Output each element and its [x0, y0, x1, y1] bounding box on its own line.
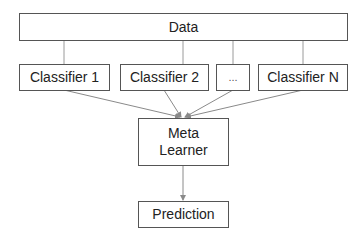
meta-learner-node: Meta Learner	[138, 118, 229, 166]
classifier-n-label: Classifier N	[267, 69, 339, 86]
classifier-1-node: Classifier 1	[19, 64, 110, 91]
ellipsis-node: ...	[216, 64, 250, 91]
classifier-2-label: Classifier 2	[130, 69, 199, 86]
meta-learner-label-line2: Learner	[159, 142, 207, 159]
arrow-classifier1-meta	[64, 90, 180, 117]
classifier-n-node: Classifier N	[258, 64, 348, 91]
arrow-ellipsis-meta	[185, 90, 233, 117]
arrow-classifierN-meta	[186, 90, 303, 117]
data-node: Data	[19, 13, 348, 41]
prediction-label: Prediction	[152, 206, 214, 223]
arrow-classifier2-meta	[164, 90, 181, 117]
prediction-node: Prediction	[138, 201, 229, 228]
ellipsis-label: ...	[228, 69, 237, 86]
data-label: Data	[169, 19, 199, 36]
classifier-2-node: Classifier 2	[120, 64, 209, 91]
meta-learner-label-line1: Meta	[168, 125, 199, 142]
classifier-1-label: Classifier 1	[30, 69, 99, 86]
